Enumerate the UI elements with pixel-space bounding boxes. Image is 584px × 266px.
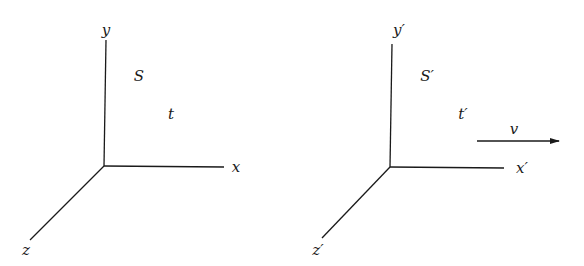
s-time-label: t — [168, 107, 174, 122]
s-prime-x-axis-label: x′ — [516, 161, 528, 176]
s-prime-y-axis-label: y′ — [393, 23, 405, 38]
s-x-axis-label: x — [232, 160, 240, 175]
s-y-axis — [104, 40, 106, 166]
s-prime-time-label: t′ — [458, 107, 467, 122]
s-prime-frame-label: S′ — [420, 69, 434, 84]
frame-s-axes — [30, 40, 224, 240]
s-prime-x-axis — [390, 167, 504, 168]
s-y-axis-label: y — [102, 23, 110, 38]
frame-s-prime-axes — [322, 44, 504, 238]
velocity-label: v — [510, 122, 518, 137]
s-x-axis — [104, 166, 224, 167]
s-prime-y-axis — [390, 44, 392, 167]
s-prime-z-axis-label: z′ — [312, 243, 323, 258]
diagram-canvas — [0, 0, 584, 266]
s-z-axis-label: z — [22, 243, 30, 258]
s-z-axis — [30, 166, 104, 240]
s-prime-z-axis — [322, 167, 390, 238]
s-frame-label: S — [134, 69, 144, 84]
